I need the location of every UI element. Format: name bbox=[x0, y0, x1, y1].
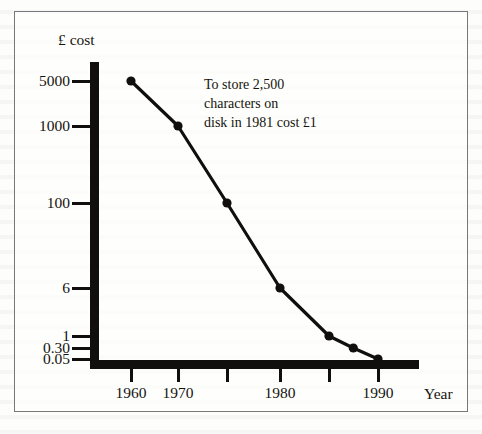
annotation-line: disk in 1981 cost £1 bbox=[204, 114, 317, 133]
data-point-marker bbox=[373, 354, 382, 363]
chart-plot-area: £ cost 50001000100610.300.05 19601970198… bbox=[0, 0, 482, 434]
figure-page: £ cost 50001000100610.300.05 19601970198… bbox=[0, 0, 482, 434]
data-point-marker bbox=[275, 283, 284, 292]
data-point-marker bbox=[173, 121, 182, 130]
annotation-line: characters on bbox=[204, 95, 317, 114]
annotation-line: To store 2,500 bbox=[204, 76, 317, 95]
chart-annotation: To store 2,500characters ondisk in 1981 … bbox=[204, 76, 317, 133]
data-point-marker bbox=[126, 76, 135, 85]
data-point-marker bbox=[222, 198, 231, 207]
data-series-line bbox=[0, 0, 482, 434]
data-point-marker bbox=[349, 343, 358, 352]
data-point-marker bbox=[324, 331, 333, 340]
x-axis-title: Year bbox=[424, 385, 453, 403]
